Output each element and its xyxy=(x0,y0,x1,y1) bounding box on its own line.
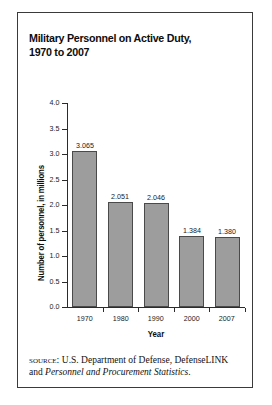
y-axis-tick-label: 0.5 xyxy=(49,277,59,286)
x-axis-category-label: 1990 xyxy=(139,314,173,323)
y-axis-tick-label: 1.5 xyxy=(49,226,59,235)
y-axis-tick: 0.0 xyxy=(62,307,67,308)
x-axis-category-label: 1970 xyxy=(68,314,102,323)
y-axis-tick: 1.5 xyxy=(62,231,67,232)
x-axis-line xyxy=(67,307,245,308)
x-axis-tick xyxy=(209,308,210,312)
x-axis-category-label: 2000 xyxy=(175,314,209,323)
y-axis-tick-label: 4.0 xyxy=(49,98,59,107)
bar: 2.051 xyxy=(108,202,133,307)
bar: 1.384 xyxy=(179,236,204,307)
y-axis-tick-label: 2.5 xyxy=(49,175,59,184)
y-axis-tick-label: 1.0 xyxy=(49,251,59,260)
y-axis-tick-label: 0.0 xyxy=(49,302,59,311)
bar-chart-plot-area: Number of personnel, in millions 4.03.53… xyxy=(18,13,254,389)
y-axis-line xyxy=(67,103,68,307)
y-axis-tick-label: 3.5 xyxy=(49,124,59,133)
bar-value-label: 2.046 xyxy=(147,193,165,202)
source-text-end: . xyxy=(188,367,190,377)
y-axis-tick: 2.0 xyxy=(62,205,67,206)
x-axis-tick xyxy=(138,308,139,312)
x-axis-tick xyxy=(103,308,104,312)
x-axis-tick xyxy=(174,308,175,312)
source-note: SOURCE: U.S. Department of Defense, Defe… xyxy=(29,354,243,378)
x-axis-category-label: 2007 xyxy=(210,314,244,323)
y-axis-tick-label: 2.0 xyxy=(49,200,59,209)
y-axis-tick: 4.0 xyxy=(62,103,67,104)
y-axis-tick: 0.5 xyxy=(62,282,67,283)
x-axis-title: Year xyxy=(74,329,238,339)
y-axis-tick: 3.0 xyxy=(62,154,67,155)
bar-value-label: 1.380 xyxy=(218,227,236,236)
y-axis-tick: 3.5 xyxy=(62,129,67,130)
figure-card: Military Personnel on Active Duty, 1970 … xyxy=(17,12,253,388)
source-label: SOURCE: xyxy=(29,354,59,365)
bar: 1.380 xyxy=(215,237,240,307)
x-axis-category-label: 1980 xyxy=(103,314,137,323)
bar-value-label: 1.384 xyxy=(183,226,201,235)
y-axis-title: Number of personnel, in millions xyxy=(36,154,46,292)
bar: 3.065 xyxy=(72,151,97,307)
y-axis-tick-label: 3.0 xyxy=(49,149,59,158)
bar-value-label: 3.065 xyxy=(76,141,94,150)
y-axis-tick: 2.5 xyxy=(62,180,67,181)
bar: 2.046 xyxy=(144,203,169,307)
y-axis-tick: 1.0 xyxy=(62,256,67,257)
x-axis-tick xyxy=(245,308,246,312)
source-publication-title: Personnel and Procurement Statistics xyxy=(45,367,188,377)
bar-value-label: 2.051 xyxy=(111,192,129,201)
